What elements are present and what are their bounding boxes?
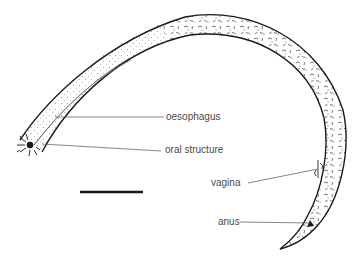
label-anus: anus (218, 217, 240, 227)
leader-lines (42, 117, 318, 223)
vagina-structure (315, 160, 323, 178)
nematode-diagram: oesophagus oral structure vagina anus (0, 0, 357, 263)
worm-body (20, 15, 346, 249)
label-oral-structure: oral structure (165, 145, 223, 155)
body-outline-inner (42, 34, 326, 249)
leader-anus (240, 222, 311, 223)
leader-vagina (248, 169, 318, 183)
leader-oral-structure (42, 144, 161, 151)
label-vagina: vagina (211, 178, 240, 188)
label-oesophagus: oesophagus (166, 112, 221, 122)
worm-drawing (0, 0, 357, 263)
